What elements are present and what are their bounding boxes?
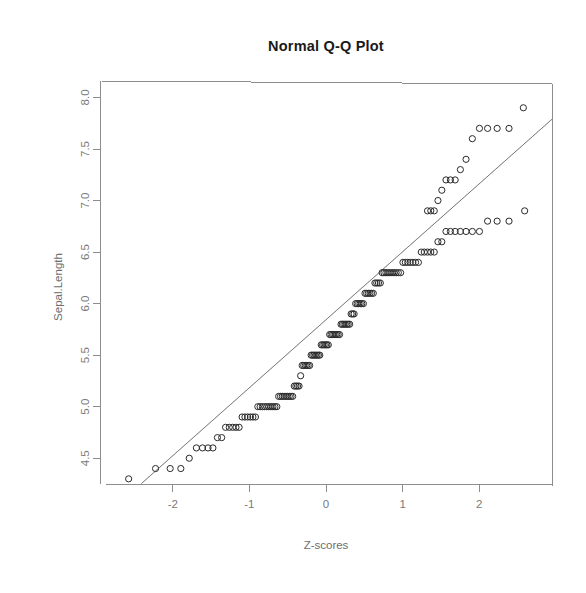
y-tick-label: 6.5: [79, 244, 91, 260]
x-tick-label: 1: [399, 498, 405, 510]
x-tick-label: 0: [323, 498, 329, 510]
x-tick-label: 2: [476, 498, 482, 510]
y-tick-label: 6.0: [79, 296, 91, 312]
y-tick-label: 7.0: [79, 193, 91, 209]
plot-canvas: Normal Q-Q Plot 4.55.05.56.06.57.07.58.0…: [0, 0, 586, 593]
y-axis-label: Sepal.Length: [52, 253, 64, 321]
y-tick-label: 4.5: [79, 450, 91, 466]
x-tick-label: -1: [244, 498, 254, 510]
y-tick-label: 7.5: [79, 141, 91, 157]
y-tick-label: 8.0: [79, 89, 91, 105]
page-title: Normal Q-Q Plot: [268, 38, 384, 54]
y-tick-label: 5.0: [79, 399, 91, 415]
y-tick-label: 5.5: [79, 347, 91, 363]
qq-plot-figure: Normal Q-Q Plot 4.55.05.56.06.57.07.58.0…: [0, 0, 586, 593]
x-axis-label: Z-scores: [304, 539, 349, 551]
x-tick-label: -2: [168, 498, 178, 510]
